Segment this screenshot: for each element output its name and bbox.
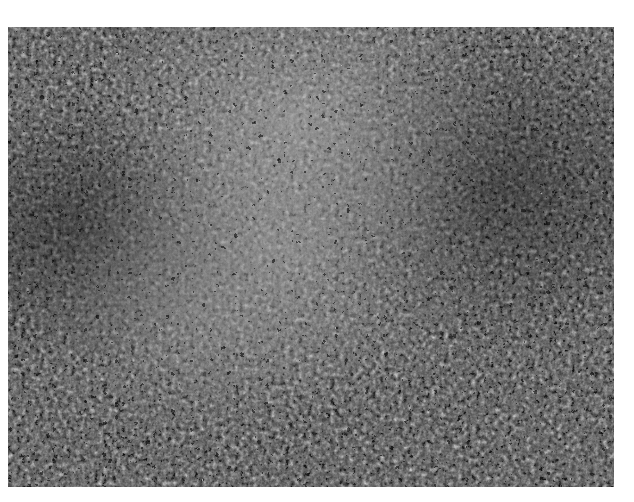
micrograph-image — [8, 27, 614, 487]
tissue-texture — [8, 27, 614, 487]
